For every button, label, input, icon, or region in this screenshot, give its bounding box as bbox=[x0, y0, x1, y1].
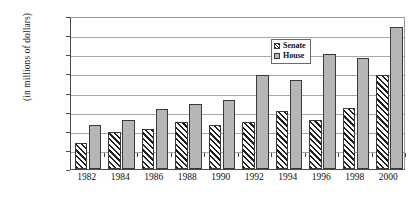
gridline bbox=[71, 56, 404, 57]
bar-senate-1994 bbox=[276, 111, 289, 169]
bar-house-1998 bbox=[357, 58, 370, 169]
y-axis-tick-mark bbox=[66, 170, 70, 171]
bar-house-1990 bbox=[223, 100, 236, 169]
x-axis-tick-mark bbox=[137, 153, 138, 157]
legend-item-house: House bbox=[274, 51, 306, 61]
gridline bbox=[71, 75, 404, 76]
bar-senate-2000 bbox=[376, 75, 389, 169]
legend-label: Senate bbox=[283, 42, 306, 50]
x-axis-tick-mark bbox=[271, 153, 272, 157]
bar-house-1994 bbox=[290, 80, 303, 169]
y-axis-title: (in millions of dollars) bbox=[22, 0, 32, 132]
bar-house-1986 bbox=[156, 109, 169, 169]
bar-chart: (in millions of dollars) $400$350$300$25… bbox=[0, 0, 420, 202]
bar-senate-1998 bbox=[343, 108, 356, 169]
plot-area bbox=[70, 17, 405, 170]
gridline bbox=[71, 37, 404, 38]
gridline bbox=[71, 95, 404, 96]
bar-house-1988 bbox=[189, 104, 202, 169]
bar-senate-1996 bbox=[309, 120, 322, 169]
bar-house-1996 bbox=[323, 54, 336, 169]
legend-item-senate: Senate bbox=[274, 41, 306, 51]
bar-senate-1986 bbox=[142, 129, 155, 169]
bar-house-1992 bbox=[256, 75, 269, 169]
bar-house-1982 bbox=[89, 125, 102, 169]
x-axis-tick-mark bbox=[204, 153, 205, 157]
x-axis-tick-mark bbox=[238, 153, 239, 157]
bar-senate-1990 bbox=[209, 125, 222, 169]
x-axis-tick-mark bbox=[338, 153, 339, 157]
x-axis-tick-mark bbox=[305, 153, 306, 157]
legend-label: House bbox=[283, 52, 304, 60]
legend-swatch-icon bbox=[274, 43, 280, 49]
x-axis-tick-mark bbox=[372, 153, 373, 157]
bar-house-1984 bbox=[122, 120, 135, 169]
bar-senate-1992 bbox=[242, 122, 255, 169]
x-axis-tick-mark bbox=[405, 153, 406, 157]
bar-house-2000 bbox=[390, 27, 403, 169]
legend-swatch-icon bbox=[274, 53, 280, 59]
bar-senate-1982 bbox=[75, 143, 88, 169]
x-axis-tick-mark bbox=[171, 153, 172, 157]
chart-legend: SenateHouse bbox=[271, 39, 311, 64]
x-axis-tick-mark bbox=[104, 153, 105, 157]
x-axis-tick-label: 2000 bbox=[368, 173, 408, 183]
bar-senate-1988 bbox=[175, 122, 188, 169]
bar-senate-1984 bbox=[108, 132, 121, 169]
